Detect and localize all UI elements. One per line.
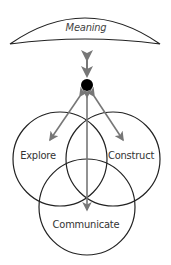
communicate-label: Communicate (53, 218, 120, 231)
construct-label: Construct (108, 149, 154, 162)
explore-arrow (50, 96, 80, 140)
meaning-label: Meaning (66, 21, 107, 34)
construct-arrow (94, 96, 123, 140)
center-dot (81, 79, 93, 91)
explore-label: Explore (20, 149, 56, 162)
